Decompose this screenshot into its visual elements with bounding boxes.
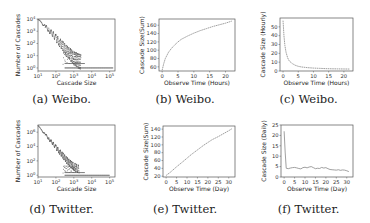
svg-text:0: 0 (275, 174, 278, 180)
svg-text:15: 15 (272, 143, 279, 149)
svg-text:103: 103 (69, 178, 79, 185)
svg-text:101: 101 (26, 52, 36, 59)
svg-text:50: 50 (271, 24, 278, 30)
data-points (38, 19, 114, 69)
svg-text:104: 104 (26, 15, 36, 22)
caption-f: (f) Twitter. (247, 202, 370, 216)
panel-f-twitter-daily-size: 0510152025300510152025Observe Time (Day)… (247, 111, 370, 223)
svg-text:0: 0 (164, 179, 167, 185)
panel-d-twitter-size-distribution: 101102103104105100102104106Cascade SizeN… (0, 111, 123, 223)
axes-frame (38, 19, 115, 71)
axes-frame (280, 18, 353, 71)
chart-c: 0510152001020304050Observe Time (Hours)C… (247, 0, 370, 90)
chart-b: 051015206080100120140160Observe Time (Ho… (123, 0, 247, 90)
svg-text:40: 40 (154, 165, 161, 171)
caption-e: (e) Twitter. (123, 202, 247, 216)
x-axis-label: Cascade Size (57, 79, 97, 86)
svg-text:102: 102 (26, 157, 36, 164)
svg-text:10: 10 (272, 153, 279, 159)
svg-text:102: 102 (51, 72, 61, 79)
x-axis-label: Observe Time (Hours) (164, 79, 230, 86)
y-axis-label: Cascade Size(Sum) (142, 123, 149, 181)
svg-text:102: 102 (26, 39, 36, 46)
svg-text:101: 101 (33, 72, 43, 79)
svg-text:5: 5 (275, 163, 278, 169)
svg-text:106: 106 (26, 128, 36, 135)
svg-text:140: 140 (151, 126, 161, 132)
svg-text:60: 60 (150, 64, 157, 70)
svg-text:140: 140 (147, 30, 157, 36)
svg-text:10: 10 (271, 59, 278, 65)
svg-text:20: 20 (272, 132, 279, 138)
svg-text:100: 100 (26, 64, 36, 71)
panel-a-weibo-size-distribution: 101102103104105100101102103104Cascade Si… (0, 0, 123, 111)
x-axis-label: Cascade Size (57, 185, 97, 192)
caption-a: (a) Weibo. (0, 92, 123, 106)
svg-text:60: 60 (154, 157, 161, 163)
svg-text:120: 120 (147, 39, 157, 45)
panel-e-twitter-cumulative-size: 05101520253020406080100120140Observe Tim… (123, 111, 247, 223)
svg-text:40: 40 (271, 32, 278, 38)
svg-text:160: 160 (147, 22, 157, 28)
axes-frame (281, 125, 353, 177)
svg-text:20: 20 (271, 50, 278, 56)
chart-e: 05101520253020406080100120140Observe Tim… (123, 111, 247, 201)
axes-frame (38, 125, 115, 177)
axes-frame (159, 19, 235, 71)
svg-text:103: 103 (26, 27, 36, 34)
svg-text:100: 100 (147, 47, 157, 53)
data-points (38, 125, 110, 175)
chart-a: 101102103104105100101102103104Cascade Si… (0, 0, 123, 90)
x-axis-label: Observe Time (Day) (169, 185, 229, 193)
y-axis-label: Number of Cascades (14, 120, 21, 182)
y-axis-label: Cascade Size (Hourly) (259, 12, 267, 78)
caption-b: (b) Weibo. (123, 92, 247, 106)
data-line (283, 21, 350, 69)
svg-text:100: 100 (26, 171, 36, 178)
svg-text:80: 80 (150, 55, 157, 61)
chart-f: 0510152025300510152025Observe Time (Day)… (247, 111, 370, 201)
svg-text:120: 120 (151, 134, 161, 140)
svg-text:104: 104 (87, 72, 97, 79)
caption-c: (c) Weibo. (247, 92, 370, 106)
caption-d: (d) Twitter. (0, 202, 123, 216)
svg-text:100: 100 (151, 142, 161, 148)
svg-text:101: 101 (33, 178, 43, 185)
x-axis-label: Observe Time (Day) (287, 185, 347, 193)
svg-text:20: 20 (154, 173, 161, 179)
svg-text:105: 105 (105, 178, 115, 185)
data-line (284, 131, 349, 171)
svg-text:104: 104 (26, 142, 36, 149)
data-line (162, 21, 232, 70)
svg-text:30: 30 (271, 41, 278, 47)
svg-text:0: 0 (282, 179, 285, 185)
svg-text:105: 105 (105, 72, 115, 79)
x-axis-label: Observe Time (Hours) (284, 79, 350, 86)
svg-text:104: 104 (87, 178, 97, 185)
svg-text:103: 103 (69, 72, 79, 79)
y-axis-label: Cascade Size(Sum) (138, 16, 145, 74)
chart-d: 101102103104105100102104106Cascade SizeN… (0, 111, 123, 201)
svg-text:80: 80 (154, 149, 161, 155)
panel-c-weibo-hourly-size: 0510152001020304050Observe Time (Hours)C… (247, 0, 370, 111)
y-axis-label: Number of Cascades (14, 14, 21, 76)
data-line (166, 129, 232, 176)
svg-text:0: 0 (274, 68, 277, 74)
y-axis-label: Cascade Size (Daily) (260, 120, 268, 181)
svg-text:25: 25 (272, 122, 279, 128)
svg-text:102: 102 (51, 178, 61, 185)
panel-b-weibo-cumulative-size: 051015206080100120140160Observe Time (Ho… (123, 0, 247, 111)
